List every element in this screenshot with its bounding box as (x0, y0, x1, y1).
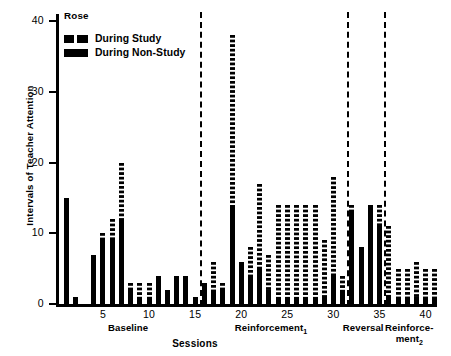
y-tick-mark (49, 303, 56, 305)
y-tick-mark (49, 232, 56, 234)
bar-segment-non-study (248, 276, 253, 304)
bar-segment-study (377, 205, 382, 226)
bar-segment-study (405, 269, 410, 297)
bar-session-17 (211, 262, 216, 304)
y-tick-label-0: 0 (14, 298, 44, 308)
bar-segment-study (423, 269, 428, 297)
bar-session-2 (73, 297, 78, 304)
bar-session-40 (423, 269, 428, 304)
bar-segment-non-study (386, 297, 391, 304)
bar-segment-non-study (303, 297, 308, 304)
bar-segment-study (119, 163, 124, 220)
bar-segment-study (340, 276, 345, 290)
bar-segment-study (349, 205, 354, 212)
bar-segment-non-study (266, 290, 271, 304)
chart-figure: Intervals of Teacher Attention Sessions … (0, 0, 451, 356)
bar-segment-non-study (110, 240, 115, 304)
bar-segment-study (248, 247, 253, 275)
x-tick-label-30: 30 (321, 309, 345, 320)
bar-session-6 (110, 219, 115, 304)
bar-segment-non-study (368, 205, 373, 304)
bar-segment-study (147, 283, 152, 297)
bar-session-23 (266, 255, 271, 305)
bar-session-31 (340, 276, 345, 304)
bar-segment-study (285, 205, 290, 297)
bar-segment-non-study (359, 247, 364, 304)
bar-session-37 (396, 269, 401, 304)
bar-segment-non-study (73, 297, 78, 304)
bar-segment-non-study (128, 290, 133, 304)
bar-segment-study (211, 262, 216, 290)
bar-segment-study (414, 262, 419, 297)
y-tick-label-10: 10 (14, 227, 44, 237)
bar-segment-study (396, 269, 401, 297)
bar-session-16 (202, 283, 207, 304)
bar-segment-non-study (119, 219, 124, 304)
bar-session-20 (239, 262, 244, 304)
bar-segment-study (100, 233, 105, 240)
bar-segment-study (276, 205, 281, 297)
bar-session-8 (128, 283, 133, 304)
bar-segment-study (322, 240, 327, 297)
x-tick-label-25: 25 (275, 309, 299, 320)
phase-label-4: Reinforce-ment2 (369, 323, 449, 348)
bar-session-14 (183, 276, 188, 304)
bar-session-41 (432, 269, 437, 304)
x-tick-label-35: 35 (368, 309, 392, 320)
bar-session-22 (257, 184, 262, 304)
bar-segment-non-study (294, 297, 299, 304)
bar-session-5 (100, 233, 105, 304)
bar-session-11 (156, 276, 161, 304)
bar-segment-non-study (91, 255, 96, 305)
bar-segment-non-study (322, 297, 327, 304)
bar-segment-non-study (340, 290, 345, 304)
bar-segment-non-study (211, 290, 216, 304)
y-tick-label-20: 20 (14, 157, 44, 167)
bar-session-34 (368, 205, 373, 304)
bar-session-33 (359, 247, 364, 304)
bar-segment-non-study (414, 297, 419, 304)
bar-segment-non-study (147, 297, 152, 304)
bar-segment-non-study (423, 297, 428, 304)
bar-segment-non-study (137, 297, 142, 304)
bar-session-19 (230, 35, 235, 304)
bar-session-9 (137, 283, 142, 304)
bar-segment-study (128, 283, 133, 290)
x-tick-label-15: 15 (183, 309, 207, 320)
bar-segment-study (386, 226, 391, 297)
bar-segment-non-study (174, 276, 179, 304)
bar-segment-non-study (193, 297, 198, 304)
bar-session-35 (377, 205, 382, 304)
bar-segment-non-study (276, 297, 281, 304)
bar-session-28 (313, 205, 318, 304)
bar-session-27 (303, 205, 308, 304)
bar-segment-non-study (202, 283, 207, 304)
bar-segment-non-study (239, 262, 244, 304)
bar-segment-study (294, 205, 299, 297)
bar-segment-non-study (377, 226, 382, 304)
bar-session-30 (331, 177, 336, 304)
bar-session-4 (91, 255, 96, 305)
bar-session-29 (322, 240, 327, 304)
bar-session-15 (193, 297, 198, 304)
x-tick-label-5: 5 (91, 309, 115, 320)
bar-segment-study (303, 205, 308, 297)
bars-plot-area (59, 14, 437, 304)
bar-segment-non-study (396, 297, 401, 304)
bar-segment-non-study (230, 205, 235, 304)
bar-segment-non-study (349, 212, 354, 304)
bar-session-36 (386, 226, 391, 304)
bar-session-18 (220, 283, 225, 304)
bar-segment-non-study (432, 297, 437, 304)
bar-segment-non-study (257, 269, 262, 304)
bar-segment-study (230, 35, 235, 205)
bar-segment-study (432, 269, 437, 297)
bar-segment-non-study (156, 276, 161, 304)
bar-session-7 (119, 163, 124, 304)
x-tick-label-10: 10 (137, 309, 161, 320)
bar-session-24 (276, 205, 281, 304)
bar-session-25 (285, 205, 290, 304)
bar-segment-study (257, 184, 262, 269)
bar-segment-study (220, 283, 225, 290)
bar-segment-non-study (64, 198, 69, 304)
